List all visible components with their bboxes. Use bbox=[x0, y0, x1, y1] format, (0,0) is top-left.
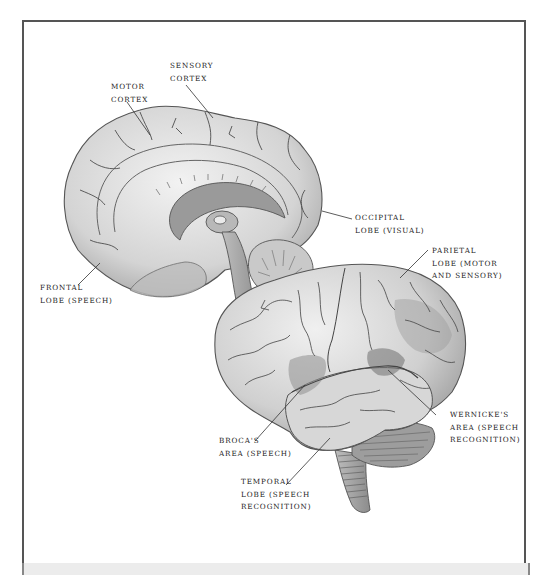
label-wernickes-area: WERNICKE'S AREA (SPEECH RECOGNITION) bbox=[450, 409, 520, 447]
label-brocas-area: BROCA'S AREA (SPEECH) bbox=[219, 435, 292, 460]
label-frontal-lobe: FRONTAL LOBE (SPEECH) bbox=[40, 282, 113, 307]
label-parietal-lobe: PARIETAL LOBE (MOTOR AND SENSORY) bbox=[432, 245, 502, 283]
label-motor-cortex: MOTOR CORTEX bbox=[111, 81, 148, 106]
label-temporal-lobe: TEMPORAL LOBE (SPEECH RECOGNITION) bbox=[241, 476, 311, 514]
label-occipital-lobe: OCCIPITAL LOBE (VISUAL) bbox=[355, 212, 425, 237]
label-sensory-cortex: SENSORY CORTEX bbox=[170, 60, 214, 85]
